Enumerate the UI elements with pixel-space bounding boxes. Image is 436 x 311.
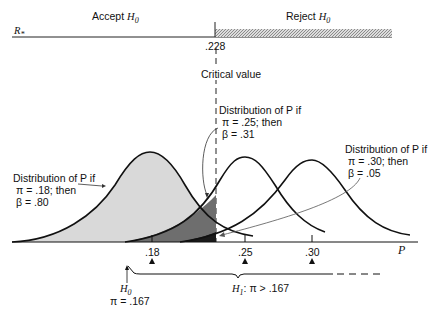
- h1-brace: [128, 266, 333, 278]
- tick-label-18: .18: [145, 246, 160, 258]
- critical-value-number: .228: [205, 40, 225, 52]
- r-star-label: R*: [14, 25, 24, 41]
- triangle-marker-icon: [149, 258, 155, 264]
- triangle-marker-icon: [242, 258, 248, 264]
- h1-label: H1: π > .167: [232, 282, 289, 299]
- reject-region: [215, 29, 392, 37]
- annotation-pi-18: Distribution of P ifπ = .18; thenβ = .80: [13, 172, 95, 208]
- accept-h0-label: Accept H0: [92, 10, 139, 27]
- reject-h0-label: Reject H0: [286, 10, 330, 27]
- critical-value-label: Critical value: [201, 68, 261, 80]
- annotation-pi-30: Distribution of P ifπ = .30; thenβ = .05: [345, 143, 427, 179]
- annotation-pi-25: Distribution of P ifπ = .25; thenβ = .31: [219, 104, 301, 140]
- triangle-marker-icon: [309, 258, 315, 264]
- tick-label-25: .25: [238, 246, 253, 258]
- h0-value: π = .167: [110, 295, 150, 307]
- tick-label-30: .30: [305, 246, 320, 258]
- p-axis-label: P: [398, 244, 405, 256]
